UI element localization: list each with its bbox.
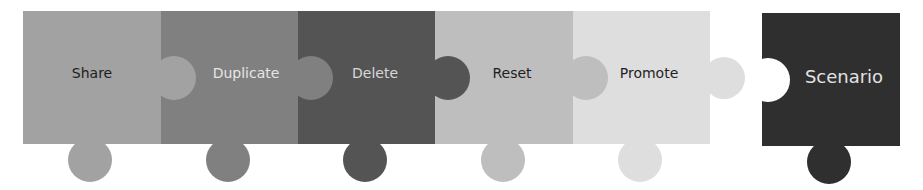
puzzle-piece-scenario — [746, 13, 900, 184]
label-delete: Delete — [352, 65, 398, 81]
label-share: Share — [72, 65, 112, 81]
puzzle-piece-promote — [573, 11, 745, 182]
label-duplicate: Duplicate — [213, 65, 280, 81]
label-reset: Reset — [492, 65, 532, 81]
knob-duplicate — [289, 56, 333, 100]
label-promote: Promote — [620, 65, 679, 81]
knob-delete — [426, 56, 470, 100]
puzzle-diagram: Share Duplicate Delete Reset Promote Sce… — [0, 0, 923, 190]
puzzle-piece-share — [23, 11, 161, 182]
knob-reset — [564, 56, 608, 100]
knob-share — [152, 56, 196, 100]
label-scenario: Scenario — [805, 66, 883, 87]
